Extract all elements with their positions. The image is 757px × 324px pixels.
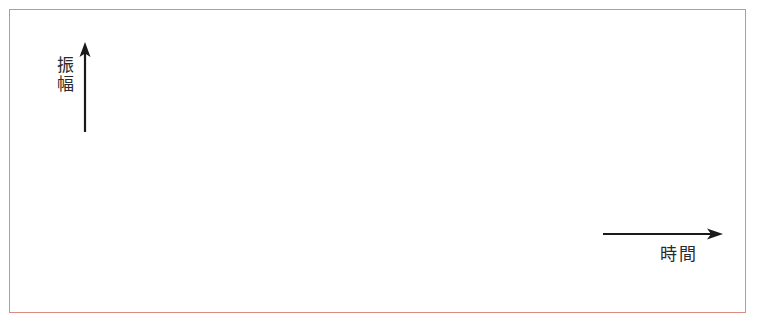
figure-root: 振幅 時間 (0, 0, 757, 324)
y-axis-label: 振幅 (52, 56, 72, 94)
x-axis-arrow-group (603, 229, 723, 240)
x-axis-label: 時間 (660, 246, 698, 263)
y-axis-arrow-group (80, 42, 91, 132)
waveform-plot (0, 0, 757, 324)
